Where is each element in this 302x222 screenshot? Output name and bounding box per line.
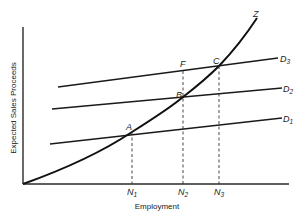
point-a-label: A [125,122,132,132]
x-axis-label: Employment [135,202,180,211]
n1-tick-label: N1 [127,187,138,198]
aggregate-supply-demand-diagram: A B C F Z D1 D2 D3 N1 N2 N3 Employment E… [0,0,302,222]
d2-label: D2 [283,84,294,95]
n3-tick-label: N3 [214,187,225,198]
point-b-label: B [176,90,182,100]
z-curve-label: Z [252,9,259,19]
point-c-label: C [213,56,220,66]
d1-line [50,118,282,144]
d2-line [52,88,282,109]
point-f-label: F [180,59,186,69]
d3-line [58,58,278,87]
n2-tick-label: N2 [178,187,189,198]
d3-label: D3 [280,54,291,65]
y-axis-label: Expected Sales Proceeds [9,62,18,154]
d1-label: D1 [283,114,294,125]
